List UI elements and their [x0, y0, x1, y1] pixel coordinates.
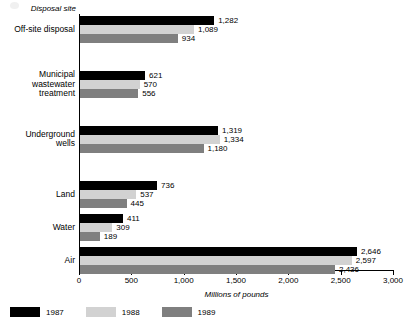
- legend-label: 1987: [46, 308, 64, 317]
- bar: [80, 190, 136, 199]
- bar-value-label: 445: [131, 199, 144, 208]
- bar-row: 1,319: [80, 126, 394, 135]
- plot-area: 05001,0001,5002,0002,5003,000 Off-site d…: [79, 14, 393, 270]
- bar-row: 189: [80, 232, 394, 241]
- bar-value-label: 934: [182, 34, 195, 43]
- legend-swatch: [86, 307, 116, 317]
- bar-row: 621: [80, 71, 394, 80]
- bar-row: 556: [80, 89, 394, 98]
- legend-label: 1989: [198, 308, 216, 317]
- bar-value-label: 556: [142, 89, 155, 98]
- bar-row: 1,282: [80, 16, 394, 25]
- bar-row: 570: [80, 80, 394, 89]
- chart-legend: 198719881989: [10, 307, 237, 317]
- bar-row: 934: [80, 34, 394, 43]
- category-label: Water: [0, 223, 75, 233]
- bar-group: Municipal wastewater treatment621570556: [80, 71, 394, 98]
- bar-value-label: 411: [127, 214, 140, 223]
- bar-value-label: 621: [149, 71, 162, 80]
- x-tick-label: 2,000: [278, 276, 298, 285]
- bar-group: Off-site disposal1,2821,089934: [80, 16, 394, 43]
- x-axis-label: Millions of pounds: [79, 290, 394, 299]
- bar-value-label: 2,597: [356, 256, 376, 265]
- x-tick-label: 2,500: [331, 276, 351, 285]
- category-label: Land: [0, 190, 75, 200]
- bar: [80, 34, 178, 43]
- category-label: Municipal wastewater treatment: [0, 70, 75, 99]
- bar: [80, 247, 357, 256]
- bar: [80, 144, 204, 153]
- category-label: Off-site disposal: [0, 25, 75, 35]
- x-tick-label: 1,500: [226, 276, 246, 285]
- bar: [80, 89, 138, 98]
- x-tick-label: 0: [77, 276, 81, 285]
- bar-value-label: 189: [104, 232, 117, 241]
- bar-row: 2,646: [80, 247, 394, 256]
- bar-row: 1,180: [80, 144, 394, 153]
- bar-row: 1,089: [80, 25, 394, 34]
- bar-group: Water411309189: [80, 214, 394, 241]
- bar-row: 1,334: [80, 135, 394, 144]
- bar-row: 2,597: [80, 256, 394, 265]
- bar: [80, 25, 194, 34]
- bar: [80, 265, 335, 274]
- bar-value-label: 570: [144, 80, 157, 89]
- bar-value-label: 309: [116, 223, 129, 232]
- bar-value-label: 537: [140, 190, 153, 199]
- bar-group: Land736537445: [80, 181, 394, 208]
- bar-row: 736: [80, 181, 394, 190]
- bar: [80, 80, 140, 89]
- x-tick-label: 3,000: [383, 276, 403, 285]
- bar-value-label: 2,646: [361, 247, 381, 256]
- legend-item: 1989: [162, 307, 216, 317]
- bar-value-label: 1,282: [218, 16, 238, 25]
- bar-group: Air2,6462,5972,436: [80, 247, 394, 274]
- bar-chart: Disposal site 05001,0001,5002,0002,5003,…: [0, 0, 417, 330]
- bar-value-label: 1,319: [222, 126, 242, 135]
- legend-item: 1987: [10, 307, 64, 317]
- y-axis-title: Disposal site: [0, 4, 76, 13]
- bar-value-label: 1,089: [198, 25, 218, 34]
- legend-label: 1988: [122, 308, 140, 317]
- category-label: Air: [0, 256, 75, 266]
- bar: [80, 71, 145, 80]
- category-label: Underground wells: [0, 130, 75, 149]
- bar: [80, 256, 352, 265]
- legend-item: 1988: [86, 307, 140, 317]
- bar: [80, 16, 214, 25]
- bar: [80, 126, 218, 135]
- x-tick-label: 500: [125, 276, 138, 285]
- bar-row: 537: [80, 190, 394, 199]
- legend-swatch: [10, 307, 40, 317]
- bar: [80, 232, 100, 241]
- bar-value-label: 1,180: [208, 144, 228, 153]
- bar-value-label: 1,334: [224, 135, 244, 144]
- bar: [80, 181, 157, 190]
- bar-row: 411: [80, 214, 394, 223]
- bar-row: 2,436: [80, 265, 394, 274]
- bar-value-label: 736: [161, 181, 174, 190]
- bar-row: 445: [80, 199, 394, 208]
- bar: [80, 135, 220, 144]
- legend-swatch: [162, 307, 192, 317]
- bar-value-label: 2,436: [339, 265, 359, 274]
- bar-row: 309: [80, 223, 394, 232]
- bar: [80, 223, 112, 232]
- bar: [80, 214, 123, 223]
- bar: [80, 199, 127, 208]
- x-tick-label: 1,000: [174, 276, 194, 285]
- bar-group: Underground wells1,3191,3341,180: [80, 126, 394, 153]
